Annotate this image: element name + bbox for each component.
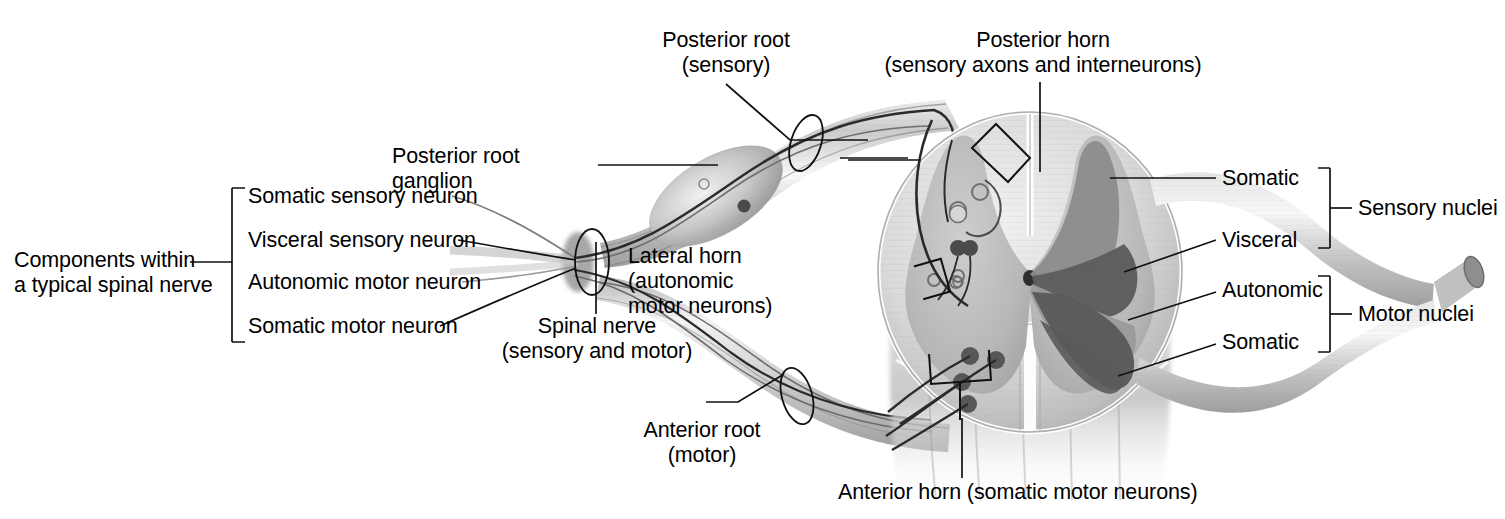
label-somatic-motor-neuron: Somatic motor neuron xyxy=(248,314,458,339)
label-anterior-horn: Anterior horn (somatic motor neurons) xyxy=(838,480,1198,505)
label-motor-autonomic: Autonomic xyxy=(1222,278,1323,303)
label-sensory-nuclei: Sensory nuclei xyxy=(1358,196,1498,221)
label-motor-nuclei: Motor nuclei xyxy=(1358,302,1474,327)
label-motor-somatic: Somatic xyxy=(1222,330,1299,355)
label-sensory-visceral: Visceral xyxy=(1222,228,1297,253)
label-posterior-root: Posterior root(sensory) xyxy=(620,28,832,78)
label-autonomic-motor-neuron: Autonomic motor neuron xyxy=(248,270,481,295)
label-visceral-sensory-neuron: Visceral sensory neuron xyxy=(248,228,476,253)
label-anterior-root: Anterior root(motor) xyxy=(596,418,808,468)
label-posterior-horn: Posterior horn(sensory axons and interne… xyxy=(836,28,1250,78)
figure-canvas: Components withina typical spinal nerve … xyxy=(0,0,1505,519)
label-posterior-root-ganglion: Posterior rootganglion xyxy=(392,144,600,194)
label-lateral-horn: Lateral horn(autonomicmotor neurons) xyxy=(628,244,860,319)
label-sensory-somatic: Somatic xyxy=(1222,166,1299,191)
components-bracket-title: Components withina typical spinal nerve xyxy=(14,248,190,298)
label-spinal-nerve: Spinal nerve(sensory and motor) xyxy=(488,314,706,364)
